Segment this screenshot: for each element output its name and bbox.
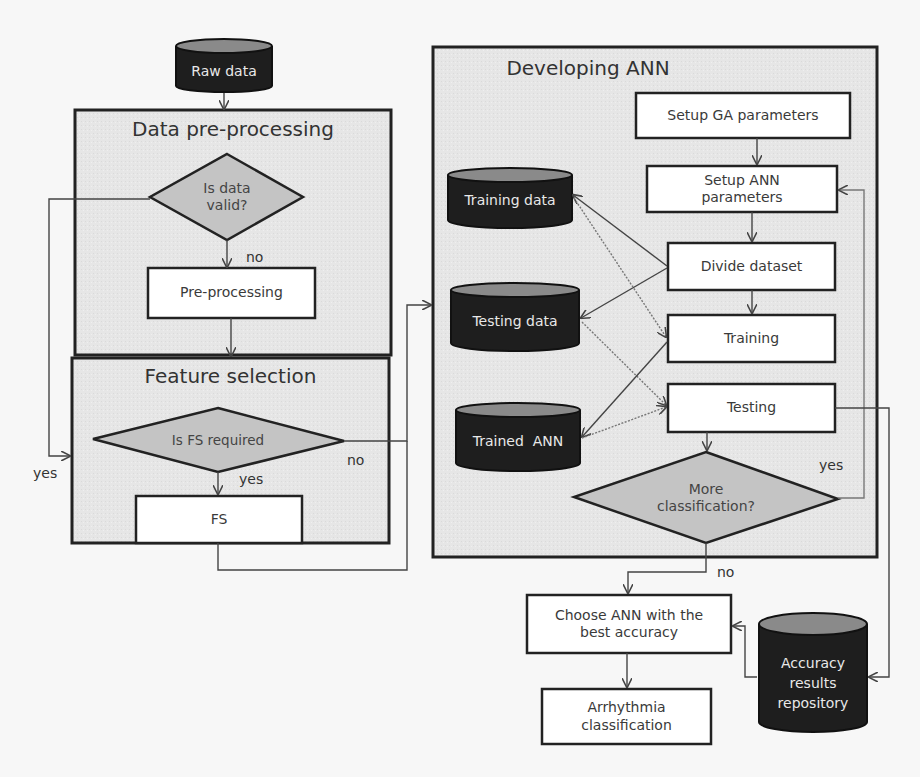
arrhythmia-line2: classification	[581, 717, 672, 735]
arrhythmia-process: Arrhythmia classification	[542, 689, 711, 744]
setup-ga-process: Setup GA parameters	[636, 93, 850, 138]
testing-data-datastore: Testing data	[451, 306, 579, 338]
is-data-valid-line1: Is data	[203, 180, 250, 198]
more-classification-line2: classification?	[657, 498, 755, 516]
panel-title-preprocessing: Data pre-processing	[75, 117, 391, 141]
accuracy-repo-line3: repository	[778, 693, 849, 713]
fs-process: FS	[136, 496, 302, 543]
accuracy-repo-line2: results	[790, 673, 837, 693]
edge-label-valid-no: no	[246, 249, 263, 265]
setup-ann-process: Setup ANN parameters	[647, 166, 837, 212]
more-classification-decision: More classification?	[630, 475, 782, 521]
edge-label-fs-yes: yes	[239, 471, 263, 487]
raw-data-datastore: Raw data	[176, 56, 272, 88]
edge-label-fs-no: no	[347, 452, 364, 468]
edge-label-more-yes: yes	[819, 457, 843, 473]
training-process: Training	[668, 315, 835, 362]
accuracy-repo-datastore: Accuracy results repository	[759, 648, 867, 718]
divide-dataset-process: Divide dataset	[668, 243, 835, 290]
edge-repo-to-choose	[733, 626, 757, 677]
is-fs-required-decision: Is FS required	[130, 428, 306, 452]
accuracy-repo-line1: Accuracy	[781, 653, 845, 673]
testing-process: Testing	[668, 384, 835, 432]
edge-label-valid-yes: yes	[33, 465, 57, 481]
more-classification-line1: More	[689, 481, 724, 499]
is-data-valid-line2: valid?	[207, 197, 248, 215]
trained-ann-datastore: Trained ANN	[456, 426, 580, 458]
setup-ann-line2: parameters	[701, 189, 782, 207]
setup-ann-line1: Setup ANN	[704, 172, 780, 190]
pre-processing-process: Pre-processing	[148, 268, 315, 318]
choose-ann-process: Choose ANN with the best accuracy	[527, 595, 731, 653]
choose-ann-line2: best accuracy	[580, 624, 678, 642]
is-data-valid-decision: Is data valid?	[175, 172, 279, 222]
arrhythmia-line1: Arrhythmia	[587, 699, 665, 717]
training-data-datastore: Training data	[448, 186, 572, 216]
panel-title-feature-selection: Feature selection	[72, 364, 389, 388]
panel-title-developing-ann: Developing ANN	[433, 56, 743, 80]
edge-label-more-no: no	[717, 564, 734, 580]
choose-ann-line1: Choose ANN with the	[555, 607, 703, 625]
